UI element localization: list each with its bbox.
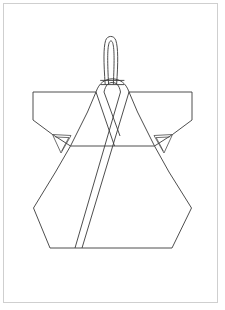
hanging-loop [104, 36, 118, 84]
collar-band-inner [96, 92, 120, 146]
left-shoulder-sleeve [33, 92, 96, 146]
wrap-jacket-figure [0, 0, 225, 310]
right-shoulder-sleeve [129, 92, 192, 146]
drawing-page [0, 0, 225, 310]
neck-opening [96, 79, 129, 92]
body-panel [34, 146, 192, 248]
